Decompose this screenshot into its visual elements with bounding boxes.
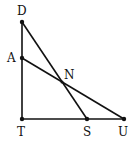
label-A: A bbox=[6, 51, 16, 65]
label-T: T bbox=[17, 125, 25, 139]
segment-DS bbox=[22, 22, 87, 119]
geometry-diagram: D A N T S U bbox=[0, 0, 133, 142]
label-S: S bbox=[83, 125, 91, 139]
point-A bbox=[20, 56, 24, 60]
label-D: D bbox=[17, 4, 27, 18]
point-T bbox=[20, 117, 24, 121]
point-U bbox=[122, 117, 126, 121]
point-S bbox=[85, 117, 89, 121]
label-N: N bbox=[64, 68, 75, 82]
label-U: U bbox=[118, 125, 128, 139]
point-D bbox=[20, 20, 24, 24]
